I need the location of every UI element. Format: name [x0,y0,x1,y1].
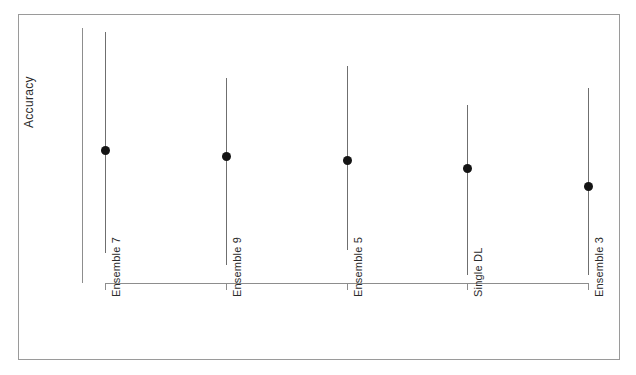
x-axis-tick [588,283,589,290]
data-point-marker[interactable] [584,182,593,191]
data-point-marker[interactable] [222,152,231,161]
x-axis-tick [347,283,348,290]
error-bar-whisker [467,105,468,275]
x-tick-label-c1: Ensemble 9 [231,237,243,297]
x-axis-tick [105,283,106,290]
x-axis-tick [467,283,468,290]
y-axis-line [82,28,83,283]
x-axis-tick [226,283,227,290]
figure-canvas: Accuracy Ensemble 7Ensemble 9Ensemble 5S… [0,0,636,375]
x-tick-label-c0: Ensemble 7 [110,237,122,297]
x-tick-label-c2: Ensemble 5 [352,237,364,297]
plot-frame-border [18,14,620,360]
error-bar-whisker [105,32,106,253]
x-tick-label-c4: Ensemble 3 [593,237,605,297]
data-point-marker[interactable] [101,146,110,155]
error-bar-whisker [226,78,227,265]
x-tick-label-c3: Single DL [472,248,484,298]
data-point-marker[interactable] [343,156,352,165]
y-axis-title: Accuracy [22,8,40,128]
data-point-marker[interactable] [463,164,472,173]
